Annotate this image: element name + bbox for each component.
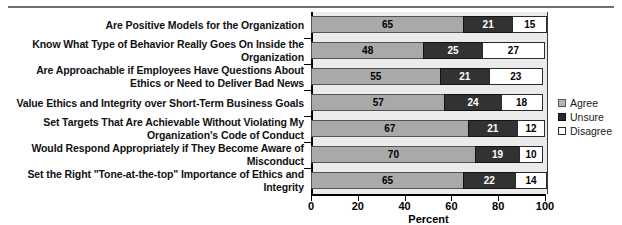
bar-segment-unsure: 22	[463, 172, 514, 189]
bar-row: 652214	[0, 168, 622, 194]
bar-segment-disagree: 14	[515, 172, 548, 189]
legend-swatch-disagree-icon	[558, 127, 566, 135]
bar-segment-agree: 57	[311, 94, 444, 111]
x-axis-title: Percent	[311, 213, 546, 225]
top-divider-rule	[8, 6, 614, 8]
x-axis-tick-label: 0	[308, 200, 314, 212]
bar-row: 572418	[0, 90, 622, 116]
bar-segment-agree: 70	[311, 146, 475, 163]
legend-label-unsure: Unsure	[570, 111, 604, 123]
legend-swatch-unsure-icon	[558, 113, 566, 121]
x-axis-tick-label: 80	[492, 200, 504, 212]
bar-segment-agree: 65	[311, 16, 463, 33]
bar-segment-unsure: 21	[463, 16, 512, 33]
legend-item-unsure: Unsure	[558, 110, 620, 123]
legend-swatch-agree-icon	[558, 99, 566, 107]
bar-segment-disagree: 10	[519, 146, 542, 163]
bar-segment-disagree: 27	[482, 42, 545, 59]
bar-segment-unsure: 25	[423, 42, 482, 59]
bar-segment-disagree: 23	[489, 68, 543, 85]
bar-row: 672112	[0, 116, 622, 142]
x-axis-tick-label: 40	[398, 200, 410, 212]
bar-row: 652115	[0, 12, 622, 38]
bar-segment-agree: 67	[311, 120, 468, 137]
bar-segment-unsure: 21	[440, 68, 489, 85]
bar-segment-agree: 65	[311, 172, 463, 189]
bar-segment-disagree: 18	[501, 94, 543, 111]
bar-row: 482527	[0, 38, 622, 64]
stacked-bar-chart: Are Positive Models for the Organization…	[0, 10, 622, 220]
x-axis-tick-label: 100	[536, 200, 554, 212]
bar-segment-unsure: 24	[444, 94, 500, 111]
legend-item-agree: Agree	[558, 96, 620, 109]
x-axis-tick-label: 20	[352, 200, 364, 212]
bar-segment-disagree: 12	[517, 120, 545, 137]
bar-row: 552123	[0, 64, 622, 90]
bar-segment-unsure: 21	[468, 120, 517, 137]
chart-legend: Agree Unsure Disagree	[558, 96, 620, 138]
bar-segment-unsure: 19	[475, 146, 519, 163]
x-axis-tick-label: 60	[445, 200, 457, 212]
legend-label-agree: Agree	[570, 97, 598, 109]
x-axis-line	[311, 194, 546, 196]
bar-segment-agree: 55	[311, 68, 440, 85]
legend-label-disagree: Disagree	[570, 125, 612, 137]
bar-segment-agree: 48	[311, 42, 423, 59]
chart-figure: Are Positive Models for the Organization…	[0, 0, 622, 225]
bar-row: 701910	[0, 142, 622, 168]
legend-item-disagree: Disagree	[558, 124, 620, 137]
bar-segment-disagree: 15	[512, 16, 547, 33]
